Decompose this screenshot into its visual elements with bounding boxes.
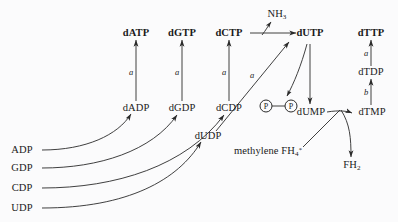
node-cdp: CDP <box>12 183 33 194</box>
arrow-fh2-out <box>341 110 351 157</box>
node-dgtp: dGTP <box>168 28 196 39</box>
arrow-gdp-to-dgdp <box>42 115 177 168</box>
node-methylene-fh4: methylene FH4* <box>234 146 302 157</box>
node-dump: dUMP <box>297 107 325 118</box>
edge-label-a-datp: a <box>129 68 133 77</box>
node-gdp: GDP <box>11 163 32 174</box>
node-dudp: dUDP <box>195 131 222 142</box>
arrow-udp-to-dudp <box>42 142 201 208</box>
edge-label-b-dtdp: b <box>364 88 368 97</box>
phosphate-circle-2: P <box>285 100 298 113</box>
arrow-adp-to-dadp <box>42 114 131 150</box>
node-dtmp: dTMP <box>358 107 385 118</box>
pathway-arrows-layer <box>0 0 398 222</box>
node-nh3: NH3 <box>267 9 286 20</box>
arrow-dutp-to-pyrophosphate <box>287 44 307 96</box>
node-dcdp: dCDP <box>216 103 242 114</box>
node-dgdp: dGDP <box>169 103 196 114</box>
edge-label-a-dgtp: a <box>175 68 179 77</box>
edge-label-a-dutp: a <box>250 71 254 80</box>
node-dctp: dCTP <box>215 28 242 39</box>
node-udp: UDP <box>11 203 32 214</box>
node-dadp: dADP <box>123 103 150 114</box>
node-fh2: FH2 <box>343 160 360 171</box>
arrow-dump-to-dtmp <box>327 111 352 113</box>
fh2-subscript: 2 <box>357 164 361 172</box>
nh3-label: NH <box>267 8 282 19</box>
fh2-label: FH <box>343 159 357 170</box>
edge-label-a-dttp: a <box>364 49 368 58</box>
arrow-dudp-to-dutp <box>216 42 289 131</box>
node-adp: ADP <box>11 145 32 156</box>
node-dttp: dTTP <box>358 28 385 39</box>
arrow-cdp-to-dcdp <box>42 115 224 188</box>
node-dtdp: dTDP <box>358 67 384 78</box>
edge-label-a-dctp: a <box>222 68 226 77</box>
nh3-subscript: 3 <box>283 13 287 21</box>
pathway-diagram: dATP dGTP dCTP dUTP dTTP NH3 dADP dGDP d… <box>0 0 398 222</box>
methylene-fh4-label: methylene FH <box>234 145 295 156</box>
node-datp: dATP <box>123 28 149 39</box>
phosphate-circle-1: P <box>260 100 273 113</box>
node-dutp: dUTP <box>296 28 323 39</box>
methylene-fh4-superscript: * <box>299 146 302 153</box>
